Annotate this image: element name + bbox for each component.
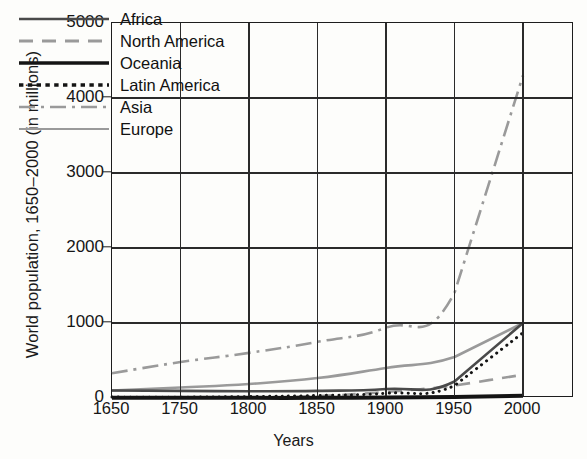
legend-label: Asia [120, 99, 152, 116]
x-tick-label: 1650 [76, 399, 146, 418]
legend-label: Oceania [120, 55, 181, 72]
legend-item-north-america: North America [18, 30, 268, 52]
legend-label: Africa [120, 11, 162, 28]
y-tick-label: 3000 [0, 162, 104, 182]
x-tick-label: 1750 [145, 399, 215, 418]
x-tick-label: 2000 [487, 399, 557, 418]
y-tick-label: 1000 [0, 312, 104, 332]
y-tick-mark [103, 171, 111, 172]
x-tick-label: 1900 [350, 399, 420, 418]
series-line-oceania [112, 396, 523, 398]
y-tick-mark [103, 246, 111, 247]
x-tick-label: 1950 [419, 399, 489, 418]
x-tick-label: 1850 [282, 399, 352, 418]
x-tick-label: 1800 [213, 399, 283, 418]
legend-item-oceania: Oceania [18, 52, 268, 74]
legend-swatch-solid [18, 56, 110, 70]
legend-item-latin-america: Latin America [18, 74, 268, 96]
gridline-vertical [454, 23, 455, 396]
legend-label: Latin America [120, 77, 220, 94]
legend-swatch-solid [18, 12, 110, 26]
gridline-vertical [385, 23, 386, 396]
chart-figure: World population, 1650–2000 (in millions… [0, 0, 587, 459]
legend-item-asia: Asia [18, 96, 268, 118]
gridline-vertical [317, 23, 318, 396]
y-tick-label: 2000 [0, 237, 104, 257]
y-tick-mark [103, 321, 111, 322]
chart-legend: AfricaNorth AmericaOceaniaLatin AmericaA… [18, 8, 268, 140]
legend-label: North America [120, 33, 225, 50]
legend-swatch-solid [18, 122, 110, 136]
legend-item-africa: Africa [18, 8, 268, 30]
legend-label: Europe [120, 121, 173, 138]
legend-swatch-dotted [18, 78, 110, 92]
legend-swatch-dashed [18, 34, 110, 48]
gridline-vertical [522, 23, 523, 396]
legend-item-europe: Europe [18, 118, 268, 140]
x-axis-title: Years [0, 432, 587, 450]
legend-swatch-dashdot [18, 100, 110, 114]
